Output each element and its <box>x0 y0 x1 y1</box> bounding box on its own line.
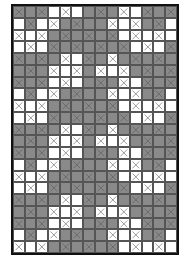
x-mark-icon <box>61 31 71 41</box>
x-mark-icon <box>84 242 94 252</box>
x-mark-icon <box>37 31 47 41</box>
white-cell <box>165 100 177 112</box>
gray-cell <box>60 159 72 171</box>
gray-cell <box>25 124 37 136</box>
gray-cell <box>153 6 165 18</box>
white-cell <box>118 218 130 230</box>
white-cell <box>130 159 142 171</box>
gray-cell <box>83 229 95 241</box>
x-mark-icon <box>154 125 164 135</box>
x-mark-icon <box>131 54 141 64</box>
gray-cell <box>95 88 107 100</box>
white-cell <box>153 182 165 194</box>
x-mark-icon <box>143 183 153 193</box>
gray-cell <box>71 112 83 124</box>
x-mark-icon <box>166 7 176 17</box>
gray-cell <box>107 30 119 42</box>
x-mark-icon <box>96 219 106 229</box>
white-cell <box>107 18 119 30</box>
white-cell <box>36 171 48 183</box>
gray-cell <box>25 77 37 89</box>
gray-cell <box>95 41 107 53</box>
white-cell <box>153 30 165 42</box>
white-cell <box>118 171 130 183</box>
white-cell <box>36 18 48 30</box>
white-cell <box>130 218 142 230</box>
white-cell <box>48 65 60 77</box>
white-cell <box>95 135 107 147</box>
x-mark-icon <box>154 195 164 205</box>
gray-cell <box>48 171 60 183</box>
white-cell <box>118 6 130 18</box>
x-mark-icon <box>131 125 141 135</box>
x-mark-icon <box>96 113 106 123</box>
gray-cell <box>36 218 48 230</box>
x-mark-icon <box>119 113 129 123</box>
gray-cell <box>83 100 95 112</box>
gray-cell <box>95 53 107 65</box>
gray-cell <box>36 147 48 159</box>
gray-cell <box>48 41 60 53</box>
gray-cell <box>83 206 95 218</box>
white-cell <box>107 229 119 241</box>
gray-cell <box>71 100 83 112</box>
x-mark-icon <box>131 31 141 41</box>
x-mark-icon <box>166 66 176 76</box>
gray-cell <box>165 53 177 65</box>
white-cell <box>60 147 72 159</box>
x-mark-icon <box>61 7 71 17</box>
white-cell <box>48 88 60 100</box>
x-mark-icon <box>154 31 164 41</box>
gray-cell <box>142 147 154 159</box>
white-cell <box>165 241 177 253</box>
white-cell <box>48 135 60 147</box>
x-mark-icon <box>84 54 94 64</box>
x-mark-icon <box>37 195 47 205</box>
white-cell <box>107 65 119 77</box>
white-cell <box>13 18 25 30</box>
gray-cell <box>165 135 177 147</box>
white-cell <box>48 229 60 241</box>
x-mark-icon <box>14 7 24 17</box>
gray-cell <box>25 65 37 77</box>
gray-cell <box>142 65 154 77</box>
gray-cell <box>95 229 107 241</box>
white-cell <box>153 112 165 124</box>
white-cell <box>13 100 25 112</box>
gray-cell <box>130 65 142 77</box>
gray-cell <box>107 112 119 124</box>
gray-cell <box>165 182 177 194</box>
x-mark-icon <box>37 78 47 88</box>
gray-cell <box>118 182 130 194</box>
white-cell <box>118 88 130 100</box>
white-cell <box>48 159 60 171</box>
x-mark-icon <box>119 219 129 229</box>
x-mark-icon <box>108 125 118 135</box>
x-mark-icon <box>108 31 118 41</box>
x-mark-icon <box>37 54 47 64</box>
gray-cell <box>142 135 154 147</box>
x-mark-icon <box>72 207 82 217</box>
x-mark-icon <box>119 42 129 52</box>
x-mark-icon <box>49 160 59 170</box>
x-mark-icon <box>26 66 36 76</box>
gray-cell <box>130 194 142 206</box>
white-cell <box>153 241 165 253</box>
gray-cell <box>153 88 165 100</box>
x-mark-icon <box>37 172 47 182</box>
gray-cell <box>107 182 119 194</box>
gray-cell <box>36 6 48 18</box>
gray-cell <box>48 112 60 124</box>
gray-cell <box>60 30 72 42</box>
white-cell <box>25 41 37 53</box>
white-cell <box>48 6 60 18</box>
white-cell <box>71 147 83 159</box>
x-mark-icon <box>154 101 164 111</box>
x-mark-icon <box>26 207 36 217</box>
white-cell <box>71 206 83 218</box>
gray-cell <box>165 124 177 136</box>
x-mark-icon <box>108 89 118 99</box>
gray-cell <box>25 6 37 18</box>
white-cell <box>60 6 72 18</box>
white-cell <box>107 124 119 136</box>
